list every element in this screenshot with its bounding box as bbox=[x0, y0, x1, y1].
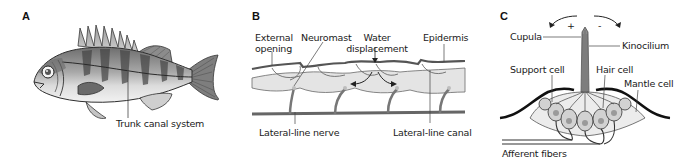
label-hair-cell: Hair cell bbox=[596, 64, 633, 75]
label-support-cell: Support cell bbox=[510, 64, 565, 75]
label-mantle-cell: Mantle cell bbox=[624, 78, 673, 89]
label-kinocilium: Kinocilium bbox=[622, 40, 669, 51]
label-cupula: Cupula bbox=[510, 31, 542, 42]
neuromast-illustration bbox=[0, 0, 688, 165]
label-minus: - bbox=[598, 20, 601, 31]
label-plus: + bbox=[567, 20, 575, 31]
lateral-line-figure: A bbox=[0, 0, 688, 165]
label-afferent-fibers: Afferent fibers bbox=[502, 148, 567, 159]
